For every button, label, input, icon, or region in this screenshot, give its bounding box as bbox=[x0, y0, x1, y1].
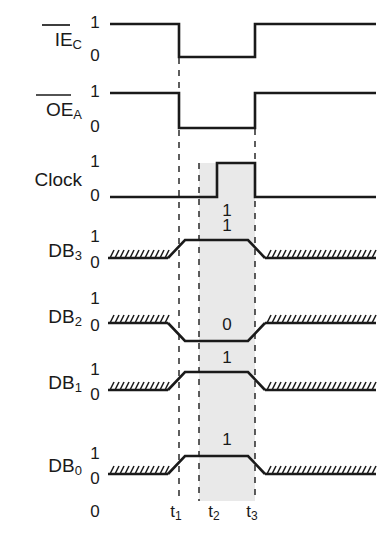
dontcare-hatch-db1-right bbox=[265, 382, 376, 390]
signal-label-iec-sub: C bbox=[73, 37, 82, 52]
dontcare-hatch-db0-left bbox=[108, 466, 169, 474]
time-axis-label-t3-sub: 3 bbox=[251, 509, 258, 523]
timing-diagram-canvas: IEC 1 0 OEA 1 0 Clock 1 0 1 bbox=[0, 0, 385, 539]
signal-label-db2: DB2 bbox=[48, 306, 82, 329]
timing-diagram-svg: IEC 1 0 OEA 1 0 Clock 1 0 1 bbox=[0, 0, 385, 539]
level-label-db0-low: 0 bbox=[90, 469, 99, 488]
level-label-db2-low: 0 bbox=[90, 316, 99, 335]
value-label-db3: 1 bbox=[222, 216, 231, 235]
signal-label-clock-base: Clock bbox=[34, 169, 82, 190]
level-label-db1-high: 1 bbox=[90, 360, 99, 379]
dontcare-hatch-db2-right bbox=[265, 315, 376, 323]
signal-label-db0-sub: 0 bbox=[75, 463, 82, 478]
time-axis-label-t1: t1 bbox=[170, 502, 182, 523]
signal-label-db3-base: DB bbox=[48, 240, 74, 261]
level-label-oea-low: 0 bbox=[90, 117, 99, 136]
signal-label-db2-base: DB bbox=[48, 306, 74, 327]
signal-label-db1: DB1 bbox=[48, 372, 82, 395]
signal-label-iec-base: IE bbox=[55, 29, 73, 50]
level-label-db3-low: 0 bbox=[90, 253, 99, 272]
level-label-clock-high: 1 bbox=[90, 152, 99, 171]
value-label-db1: 1 bbox=[222, 348, 231, 367]
level-label-db2-high: 1 bbox=[90, 289, 99, 308]
signal-label-db3: DB3 bbox=[48, 240, 82, 263]
time-axis-label-t2: t2 bbox=[208, 502, 220, 523]
waveform-iec bbox=[110, 24, 376, 57]
signal-label-db3-sub: 3 bbox=[75, 248, 82, 263]
signal-label-db0: DB0 bbox=[48, 455, 82, 478]
signal-label-db2-sub: 2 bbox=[75, 314, 82, 329]
time-axis-labels: 0 t1 t2 t3 bbox=[90, 502, 258, 523]
signal-label-iec: IEC bbox=[55, 29, 82, 52]
time-axis-label-t2-sub: 2 bbox=[213, 509, 220, 523]
level-label-db3-high: 1 bbox=[90, 227, 99, 246]
signal-row-iec: IEC 1 0 bbox=[42, 13, 376, 65]
level-label-db1-low: 0 bbox=[90, 385, 99, 404]
level-label-iec-low: 0 bbox=[90, 46, 99, 65]
dontcare-hatch-db3-left bbox=[108, 250, 169, 258]
signal-label-db1-sub: 1 bbox=[75, 380, 82, 395]
signal-label-clock: Clock bbox=[34, 169, 82, 190]
dontcare-hatch-db2-left bbox=[108, 315, 169, 323]
dontcare-hatch-db0-right bbox=[265, 466, 376, 474]
time-axis-label-t1-sub: 1 bbox=[175, 509, 182, 523]
level-label-iec-high: 1 bbox=[90, 13, 99, 32]
dontcare-hatch-db1-left bbox=[108, 382, 169, 390]
signal-label-db1-base: DB bbox=[48, 372, 74, 393]
time-axis-origin-label: 0 bbox=[90, 502, 99, 521]
level-label-db0-high: 1 bbox=[90, 444, 99, 463]
signal-label-db0-base: DB bbox=[48, 455, 74, 476]
level-label-oea-high: 1 bbox=[90, 82, 99, 101]
level-label-clock-low: 0 bbox=[90, 186, 99, 205]
signal-label-oea: OEA bbox=[46, 99, 82, 122]
time-axis-label-t3: t3 bbox=[246, 502, 258, 523]
dontcare-hatch-db3-right bbox=[265, 250, 376, 258]
waveform-oea bbox=[110, 93, 376, 128]
value-label-db0: 1 bbox=[222, 430, 231, 449]
signal-label-oea-sub: A bbox=[73, 107, 82, 122]
signal-row-oea: OEA 1 0 bbox=[36, 82, 376, 136]
value-label-db2: 0 bbox=[222, 315, 231, 334]
signal-label-oea-base: OE bbox=[46, 99, 73, 120]
